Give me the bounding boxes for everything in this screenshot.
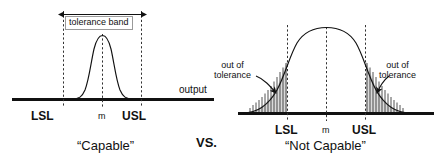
usl-label-left: USL — [122, 110, 146, 122]
tolerance-band-label: tolerance band — [65, 16, 133, 30]
out-of-tolerance-label-right: out of tolerance — [379, 60, 416, 80]
versus-separator: VS. — [196, 136, 217, 149]
out-of-tolerance-label-right-line1: out of — [379, 60, 416, 70]
lsl-label-right: LSL — [275, 124, 298, 136]
caption-capable: “Capable” — [77, 139, 134, 152]
out-of-tolerance-label-left-line2: tolerance — [214, 70, 251, 80]
out-of-tolerance-label-left: out of tolerance — [214, 60, 251, 80]
out-of-tolerance-label-right-line2: tolerance — [379, 70, 416, 80]
mean-label-right: m — [322, 126, 330, 135]
out-of-tolerance-region-left — [246, 61, 287, 113]
callout-arrow-left — [256, 76, 276, 93]
out-of-tolerance-label-left-line1: out of — [214, 60, 251, 70]
output-axis-label: output — [179, 85, 207, 95]
caption-not-capable: “Not Capable” — [285, 139, 366, 152]
usl-label-right: USL — [352, 124, 376, 136]
mean-label-left: m — [98, 112, 106, 121]
lsl-label-left: LSL — [31, 110, 54, 122]
distribution-curve-left — [72, 36, 133, 100]
